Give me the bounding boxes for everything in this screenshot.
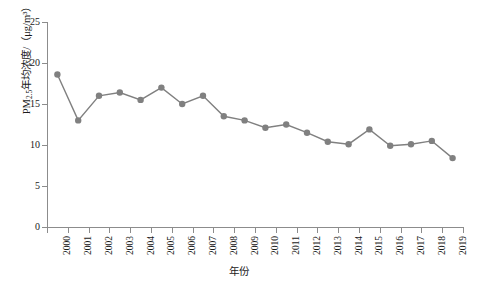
- x-axis-tick-label: 2004: [146, 236, 156, 270]
- data-point-marker: [96, 93, 102, 99]
- y-axis-tick-mark: [42, 186, 47, 187]
- x-axis-tick-mark: [338, 228, 339, 233]
- data-point-marker: [200, 93, 206, 99]
- x-axis-tick-mark: [109, 228, 110, 233]
- data-point-marker: [283, 121, 289, 127]
- y-axis-tick-label: 0: [14, 222, 40, 232]
- x-axis-tick-label: 2014: [354, 236, 364, 270]
- data-point-marker: [429, 138, 435, 144]
- y-axis-tick-label: 5: [14, 181, 40, 191]
- data-point-marker: [408, 141, 414, 147]
- x-axis-tick-mark: [47, 228, 48, 233]
- y-axis-tick-label: 20: [14, 58, 40, 68]
- x-axis-tick-label: 2010: [270, 236, 280, 270]
- x-axis-tick-mark: [421, 228, 422, 233]
- data-point-marker: [137, 97, 143, 103]
- y-axis-tick-label: 15: [14, 99, 40, 109]
- data-point-marker: [221, 113, 227, 119]
- y-axis-tick-label: 25: [14, 17, 40, 27]
- data-point-marker: [345, 141, 351, 147]
- x-axis-tick-label: 2019: [458, 236, 468, 270]
- y-axis-tick-mark: [42, 63, 47, 64]
- data-point-marker: [387, 143, 393, 149]
- x-axis-tick-label: 2006: [187, 236, 197, 270]
- data-point-marker: [262, 125, 268, 131]
- x-axis-tick-label: 2000: [62, 236, 72, 270]
- x-axis-tick-mark: [401, 228, 402, 233]
- x-axis-tick-label: 2003: [125, 236, 135, 270]
- plot-area: [47, 22, 463, 227]
- x-axis-tick-label: 2007: [208, 236, 218, 270]
- y-axis-tick-labels: 0510152025: [14, 0, 40, 289]
- x-axis-tick-label: 2018: [437, 236, 447, 270]
- x-axis-tick-label: 2013: [333, 236, 343, 270]
- x-axis-tick-label: 2011: [291, 236, 301, 270]
- y-axis-tick-label: 10: [14, 140, 40, 150]
- x-axis-tick-mark: [89, 228, 90, 233]
- x-axis-tick-mark: [359, 228, 360, 233]
- data-point-marker: [366, 126, 372, 132]
- x-axis-tick-mark: [255, 228, 256, 233]
- data-point-marker: [304, 130, 310, 136]
- x-axis-tick-mark: [193, 228, 194, 233]
- y-axis-tick-mark: [42, 104, 47, 105]
- x-axis-tick-mark: [151, 228, 152, 233]
- data-point-marker: [325, 139, 331, 145]
- x-axis-tick-mark: [276, 228, 277, 233]
- data-point-marker: [54, 71, 60, 77]
- x-axis-tick-label: 2016: [395, 236, 405, 270]
- x-axis-tick-label: 2005: [166, 236, 176, 270]
- x-axis-tick-label: 2002: [104, 236, 114, 270]
- data-point-marker: [241, 117, 247, 123]
- y-axis-tick-mark: [42, 22, 47, 23]
- data-point-marker: [75, 117, 81, 123]
- data-point-marker: [158, 84, 164, 90]
- x-axis-tick-label: 2009: [250, 236, 260, 270]
- x-axis-tick-mark: [442, 228, 443, 233]
- x-axis-tick-mark: [317, 228, 318, 233]
- x-axis-tick-label: 2012: [312, 236, 322, 270]
- x-axis-tick-label: 2001: [83, 236, 93, 270]
- series-pm25: [47, 22, 463, 227]
- y-axis-tick-mark: [42, 145, 47, 146]
- x-axis-tick-mark: [213, 228, 214, 233]
- x-axis-tick-mark: [297, 228, 298, 233]
- x-axis-tick-label: 2017: [416, 236, 426, 270]
- x-axis-tick-mark: [380, 228, 381, 233]
- data-point-marker: [449, 155, 455, 161]
- x-axis-tick-mark: [234, 228, 235, 233]
- x-axis-tick-mark: [68, 228, 69, 233]
- pm25-line-chart: PM2.5年均浓度/（μg/m³） 0510152025 年份 20002001…: [0, 0, 477, 289]
- x-axis-tick-mark: [463, 228, 464, 233]
- x-axis-tick-label: 2015: [374, 236, 384, 270]
- x-axis-tick-mark: [172, 228, 173, 233]
- x-axis-tick-mark: [130, 228, 131, 233]
- x-axis-tick-label: 2008: [229, 236, 239, 270]
- data-point-marker: [179, 101, 185, 107]
- data-point-marker: [117, 89, 123, 95]
